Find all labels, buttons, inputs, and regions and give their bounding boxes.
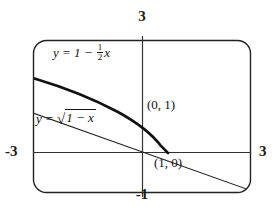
y-axis-min-label: -1 (0, 186, 276, 203)
point-label-x-intercept: (1, 0) (154, 155, 182, 171)
plot-canvas (0, 0, 276, 210)
one-half-fraction: 12 (97, 43, 104, 63)
radicand: 1 − x (65, 109, 96, 126)
radical-sign-glyph: √ (57, 111, 65, 128)
curve-equation-prefix: y = (36, 111, 57, 126)
line-equation-suffix: x (104, 45, 110, 60)
line-equation-label: y = 1 − 12x (53, 44, 110, 64)
y-axis-max-label: 3 (0, 8, 276, 25)
square-root-symbol: √1 − x (57, 110, 96, 127)
x-axis-min-label: -3 (5, 143, 18, 160)
line-equation-prefix: y = 1 − (53, 45, 96, 60)
x-axis-max-label: 3 (259, 143, 267, 160)
point-label-y-intercept: (0, 1) (147, 97, 175, 113)
fraction-denominator: 2 (97, 52, 104, 62)
curve-equation-label: y = √1 − x (36, 110, 96, 127)
function-graph-figure: 3 -1 -3 3 (0, 1) (1, 0) y = 1 − 12x y = … (0, 0, 276, 210)
fraction-numerator: 1 (97, 43, 104, 52)
